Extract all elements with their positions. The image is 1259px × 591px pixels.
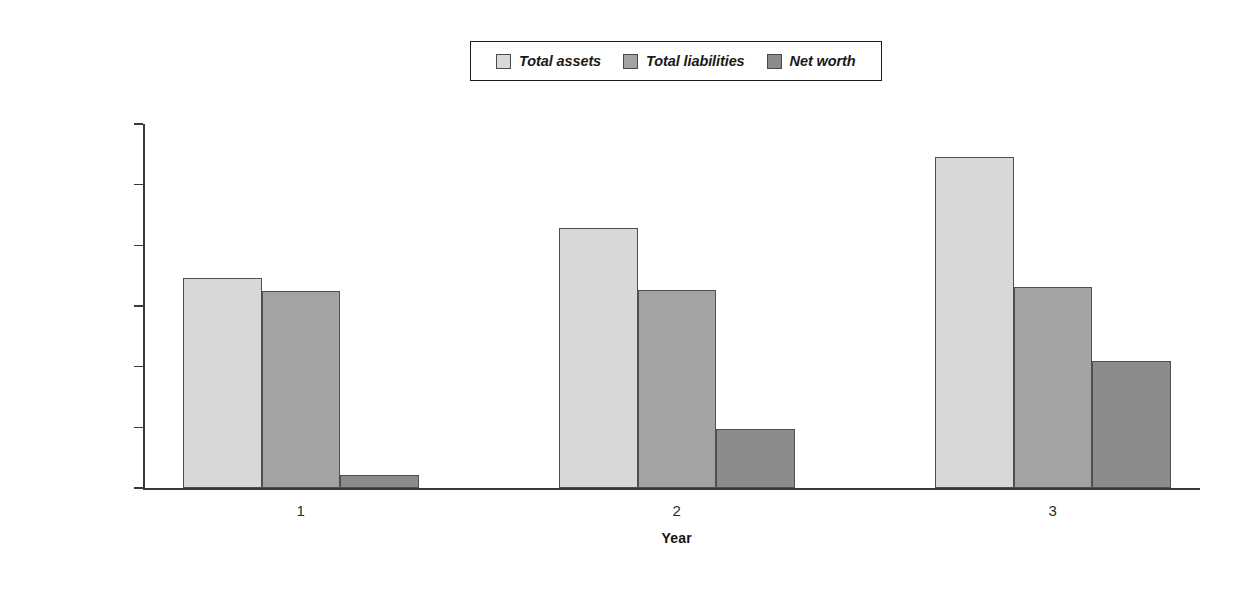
bar-net-worth-year-1 — [340, 475, 419, 488]
y-axis-tick — [134, 123, 143, 124]
legend-swatch-net-worth — [767, 54, 782, 69]
bar-total-liabilities-year-1 — [262, 291, 341, 488]
x-axis-label-year-3: 3 — [1049, 502, 1057, 519]
bar-total-assets-year-2 — [559, 228, 638, 488]
legend-entry-net-worth: Net worth — [767, 53, 856, 69]
legend-label-total-assets: Total assets — [519, 53, 601, 69]
legend-label-total-liabilities: Total liabilities — [646, 53, 744, 69]
bar-total-liabilities-year-3 — [1014, 287, 1093, 488]
bar-chart-figure: Total assets Total liabilities Net worth… — [0, 0, 1259, 591]
y-axis-line — [143, 124, 145, 488]
y-axis-tick — [134, 487, 143, 488]
y-axis-tick — [134, 184, 143, 185]
plot-area: $0$50,000$100,000$150,000$200,000$250,00… — [143, 124, 1200, 488]
y-axis-tick — [134, 245, 143, 246]
legend-swatch-total-assets — [496, 54, 511, 69]
bar-net-worth-year-3 — [1092, 361, 1171, 488]
legend-entry-total-assets: Total assets — [496, 53, 601, 69]
x-axis-title: Year — [662, 530, 692, 546]
x-axis-label-year-1: 1 — [297, 502, 305, 519]
chart-legend: Total assets Total liabilities Net worth — [470, 41, 882, 81]
y-axis-tick — [134, 427, 143, 428]
legend-entry-total-liabilities: Total liabilities — [623, 53, 744, 69]
bar-total-liabilities-year-2 — [638, 290, 717, 488]
bar-total-assets-year-3 — [935, 157, 1014, 488]
legend-label-net-worth: Net worth — [790, 53, 856, 69]
x-axis-label-year-2: 2 — [673, 502, 681, 519]
y-axis-tick — [134, 305, 143, 306]
y-axis-tick — [134, 366, 143, 367]
x-axis-line — [143, 488, 1200, 490]
bar-total-assets-year-1 — [183, 278, 262, 488]
legend-swatch-total-liabilities — [623, 54, 638, 69]
bar-net-worth-year-2 — [716, 429, 795, 488]
